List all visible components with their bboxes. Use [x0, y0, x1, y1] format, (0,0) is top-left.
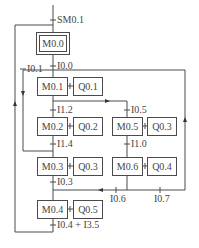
transition-i0-6: I0.6	[110, 194, 126, 204]
step-m0-2: M0.2	[37, 117, 68, 136]
transition-sm0-1: SM0.1	[57, 15, 84, 25]
action-q0-5: Q0.5	[73, 200, 103, 219]
transition-i0-5: I0.5	[131, 105, 147, 115]
transition-i0-3: I0.3	[57, 177, 73, 187]
action-q0-4: Q0.4	[147, 157, 177, 176]
step-label: M0.0	[39, 35, 67, 52]
action-q0-2: Q0.2	[73, 117, 103, 136]
transition-i1-2: I1.2	[57, 105, 73, 115]
transition-i0-0: I0.0	[57, 61, 73, 71]
step-m0-3: M0.3	[37, 157, 68, 176]
transition-i0-1: I0.1	[27, 64, 43, 74]
step-m0-0-initial: M0.0	[36, 32, 70, 55]
transition-i0-4-or-not-i3-5: I0.4 + I3.5	[57, 220, 99, 230]
step-m0-1: M0.1	[37, 77, 68, 96]
sfc-diagram: M0.0 M0.1 Q0.1 M0.2 Q0.2 M0.3 Q0.3 M0.4 …	[0, 0, 199, 248]
transition-i1-0: I1.0	[131, 139, 147, 149]
transition-i0-7: I0.7	[154, 194, 170, 204]
step-m0-6: M0.6	[112, 157, 143, 176]
transition-i1-4: I1.4	[57, 139, 73, 149]
step-m0-4: M0.4	[37, 200, 68, 219]
action-q0-3-b: Q0.3	[147, 117, 177, 136]
action-q0-3: Q0.3	[73, 157, 103, 176]
action-q0-1: Q0.1	[73, 77, 103, 96]
step-m0-5: M0.5	[112, 117, 143, 136]
